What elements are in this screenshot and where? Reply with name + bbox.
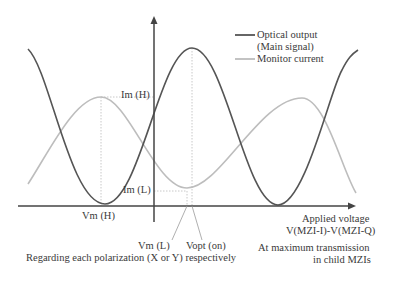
vm-l-pointer (172, 206, 187, 240)
polarization-note: Regarding each polarization (X or Y) res… (26, 252, 236, 264)
im-h-label: Im (H) (121, 89, 150, 101)
diagram-canvas (0, 0, 402, 281)
im-l-label: Im (L) (123, 184, 151, 196)
optical-output-curve (28, 48, 358, 205)
transmission-note-line1: At maximum transmission (258, 242, 369, 254)
x-axis-label-line1: Applied voltage (302, 213, 369, 225)
legend-optical-output-label: Optical output (257, 29, 317, 41)
vopt-on-label: Vopt (on) (186, 240, 226, 252)
vm-h-label: Vm (H) (82, 210, 115, 222)
legend-main-signal-label: (Main signal) (257, 41, 314, 53)
optical-output-vs-voltage-diagram: Optical output (Main signal) Monitor cur… (0, 0, 402, 281)
legend-monitor-current-label: Monitor current (257, 53, 324, 65)
vopt-pointer (192, 206, 202, 240)
vm-l-label: Vm (L) (138, 240, 170, 252)
pointer-lines (172, 206, 202, 240)
x-axis-arrow-icon (348, 203, 356, 210)
x-axis-label-line2: V(MZI-I)-V(MZI-Q) (286, 225, 375, 237)
transmission-note-line2: in child MZIs (313, 254, 371, 266)
guide-lines (101, 48, 192, 206)
y-axis-arrow-icon (151, 16, 158, 24)
